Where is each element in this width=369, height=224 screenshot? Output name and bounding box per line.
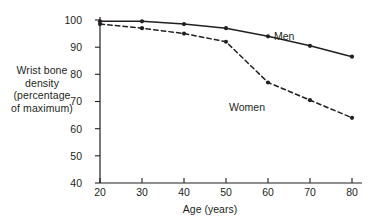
data-point-women-30 — [140, 26, 144, 30]
y-axis-ticks — [95, 20, 100, 183]
data-point-men-70 — [308, 44, 312, 48]
data-point-men-30 — [140, 19, 144, 23]
plot-area — [0, 0, 369, 224]
axis-lines — [100, 17, 362, 183]
data-point-women-80 — [350, 116, 354, 120]
data-point-men-40 — [182, 22, 186, 26]
data-point-women-20 — [98, 22, 102, 26]
data-point-women-60 — [266, 80, 270, 84]
data-point-men-80 — [350, 55, 354, 59]
chart-container: Wrist bone density (percentage of maximu… — [0, 0, 369, 224]
data-point-men-60 — [266, 34, 270, 38]
data-point-women-40 — [182, 31, 186, 35]
series-women — [98, 22, 354, 120]
x-axis-ticks — [100, 178, 352, 183]
data-point-men-50 — [224, 26, 228, 30]
series-men — [98, 19, 354, 59]
data-point-women-70 — [308, 98, 312, 102]
data-point-women-50 — [224, 40, 228, 44]
